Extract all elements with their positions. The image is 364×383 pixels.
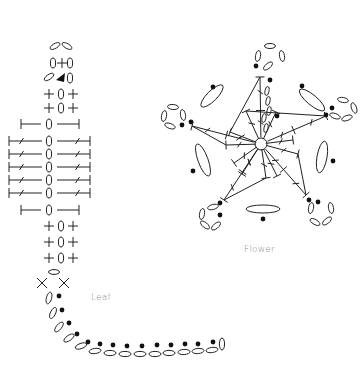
slip-stitch-dot-icon	[183, 342, 188, 347]
double-crochet-icon	[228, 128, 256, 142]
stitch-cap	[292, 136, 293, 145]
slip-stitch-dot-icon	[275, 114, 280, 119]
single-crochet-plus-icon	[68, 103, 78, 113]
flower-label: Flower	[244, 244, 275, 254]
chain-zero-icon	[46, 162, 51, 172]
stitch-stem	[226, 144, 256, 145]
half-double-crochet-icon	[57, 119, 79, 129]
slip-stitch-dot-icon	[140, 344, 145, 349]
double-crochet-icon	[220, 172, 242, 202]
chain-oval-icon	[49, 270, 60, 275]
slip-stitch-dot-icon	[86, 340, 91, 345]
start-arrow-icon	[56, 73, 65, 82]
chain-oval-icon	[321, 216, 333, 227]
chain-oval-icon	[279, 50, 286, 62]
chain-oval-icon	[265, 44, 276, 49]
single-crochet-plus-icon	[68, 89, 78, 99]
stitch-stem	[242, 149, 258, 175]
chain-zero-icon	[58, 221, 63, 231]
stitch-slash	[293, 183, 300, 184]
connecting-stitch-line	[224, 178, 266, 200]
long-chain-loop-icon	[192, 142, 213, 177]
chain-zero-icon	[58, 89, 63, 99]
stitch-slash	[231, 184, 233, 190]
chain-oval-icon	[167, 104, 178, 110]
chain-oval-icon	[74, 342, 87, 351]
chain-zero-icon	[67, 73, 72, 83]
slip-stitch-dot-icon	[307, 198, 312, 203]
double-crochet-icon	[9, 188, 42, 198]
chain-zero-icon	[46, 188, 51, 198]
stitch-cap	[273, 174, 281, 178]
single-crochet-plus-icon	[44, 221, 54, 231]
chain-oval-icon	[350, 102, 358, 114]
chain-oval-icon	[61, 41, 73, 51]
slip-stitch-dot-icon	[211, 340, 216, 345]
slip-stitch-dot-icon	[268, 78, 273, 83]
chain-oval-icon	[89, 348, 102, 355]
slip-stitch-dot-icon	[300, 84, 305, 89]
single-crochet-plus-icon	[44, 237, 54, 247]
connecting-stitch-line	[246, 111, 326, 116]
slip-stitch-dot-icon	[316, 200, 321, 205]
slip-stitch-dot-icon	[218, 213, 223, 218]
slip-stitch-dot-icon	[111, 343, 116, 348]
chain-oval-icon	[309, 217, 321, 227]
chain-zero-icon	[46, 205, 51, 215]
stitch-stem	[224, 172, 243, 200]
chain-oval-icon	[163, 350, 175, 355]
magic-ring-icon	[255, 138, 267, 150]
chain-oval-icon	[192, 348, 204, 354]
slip-stitch-dot-icon	[125, 344, 130, 349]
slip-stitch-dot-icon	[60, 308, 65, 313]
chain-oval-icon	[53, 321, 65, 334]
slip-stitch-dot-icon	[180, 123, 185, 128]
stitch-slash	[272, 160, 279, 161]
x-stitch-icon	[59, 278, 69, 288]
double-crochet-icon	[57, 136, 90, 146]
stitch-slash	[248, 123, 255, 124]
chain-oval-icon	[206, 347, 219, 354]
slip-stitch-dot-icon	[169, 343, 174, 348]
crochet-diagram	[0, 0, 364, 383]
double-crochet-icon	[266, 149, 287, 172]
slip-stitch-dot-icon	[324, 113, 329, 118]
single-crochet-plus-icon	[68, 237, 78, 247]
chain-oval-icon	[261, 113, 267, 123]
slip-stitch-dot-icon	[189, 120, 194, 125]
chain-oval-icon	[161, 110, 168, 122]
chain-zero-icon	[46, 119, 51, 129]
leaf-label: Leaf	[91, 292, 111, 302]
chain-oval-icon	[164, 122, 176, 130]
chain-zero-icon	[50, 58, 55, 68]
single-crochet-plus-icon	[44, 103, 54, 113]
double-crochet-icon	[57, 149, 90, 159]
chain-zero-icon	[46, 136, 51, 146]
half-double-crochet-icon	[21, 205, 41, 215]
stitch-stem	[284, 170, 307, 196]
long-chain-loop-icon	[246, 205, 280, 213]
double-crochet-icon	[268, 126, 296, 141]
chain-oval-icon	[263, 123, 269, 133]
single-crochet-plus-icon	[44, 89, 54, 99]
chain-oval-icon	[207, 203, 219, 211]
double-crochet-icon	[9, 149, 42, 159]
x-stitch-icon	[37, 278, 47, 288]
single-crochet-plus-icon	[68, 221, 78, 231]
double-crochet-icon	[57, 175, 90, 185]
connecting-stitch-line	[230, 77, 260, 132]
slip-stitch-dot-icon	[254, 64, 259, 69]
slip-stitch-dot-icon	[196, 342, 201, 347]
chain-oval-icon	[48, 306, 58, 319]
chain-zero-icon	[46, 175, 51, 185]
stitch-cap	[231, 159, 236, 166]
double-crochet-icon	[9, 136, 42, 146]
chain-oval-icon	[266, 106, 272, 116]
long-chain-loop-icon	[314, 140, 329, 173]
single-crochet-plus-icon	[44, 253, 54, 263]
slip-stitch-dot-icon	[211, 85, 216, 90]
chain-oval-icon	[265, 96, 271, 106]
chain-oval-icon	[308, 202, 315, 214]
connecting-stitch-line	[298, 154, 306, 195]
chain-oval-icon	[178, 349, 190, 355]
